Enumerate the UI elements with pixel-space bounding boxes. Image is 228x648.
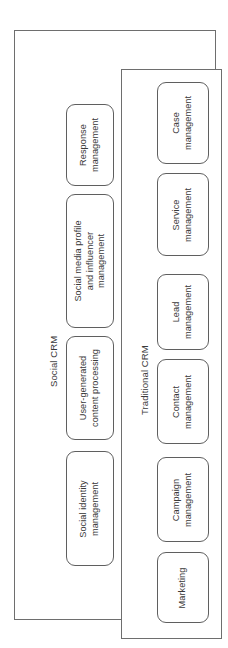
node-user-generated-content-processing-label: User-generated content processing	[78, 338, 101, 438]
node-service-management-text-wrap: Service management	[171, 175, 194, 254]
node-social-media-profile-and-influencer-management[interactable]: Social media profile and influencer mana…	[66, 194, 114, 328]
node-marketing[interactable]: Marketing	[157, 552, 209, 623]
node-response-management-text-wrap: Response management	[78, 106, 101, 184]
social-crm-group-label: Social CRM	[48, 336, 59, 387]
node-user-generated-content-processing[interactable]: User-generated content processing	[66, 336, 114, 440]
node-user-generated-content-processing-text-wrap: User-generated content processing	[78, 338, 101, 438]
node-marketing-text-wrap: Marketing	[177, 554, 189, 621]
node-contact-management[interactable]: Contact management	[157, 359, 209, 444]
node-campaign-management-text-wrap: Campaign management	[171, 459, 194, 540]
node-lead-management-text-wrap: Lead management	[171, 276, 194, 348]
node-social-identity-management-label: Social identity management	[78, 454, 101, 564]
node-social-identity-management[interactable]: Social identity management	[66, 451, 114, 566]
node-social-media-profile-text-wrap: Social media profile and influencer mana…	[73, 196, 108, 326]
node-response-management[interactable]: Response management	[66, 104, 114, 186]
social-crm-group-container: Social CRM Response management Social me…	[14, 30, 216, 620]
node-marketing-label: Marketing	[177, 554, 189, 621]
traditional-crm-group-container: Traditional CRM Case management Service …	[121, 69, 222, 639]
node-case-management[interactable]: Case management	[157, 82, 209, 164]
node-lead-management-label: Lead management	[171, 276, 194, 348]
node-social-media-profile-and-influencer-management-label: Social media profile and influencer mana…	[73, 196, 108, 326]
node-lead-management[interactable]: Lead management	[157, 274, 209, 350]
node-service-management[interactable]: Service management	[157, 173, 209, 256]
node-response-management-label: Response management	[78, 106, 101, 184]
node-contact-management-text-wrap: Contact management	[171, 361, 194, 442]
node-service-management-label: Service management	[171, 175, 194, 254]
node-contact-management-label: Contact management	[171, 361, 194, 442]
node-campaign-management-label: Campaign management	[171, 459, 194, 540]
node-social-identity-management-text-wrap: Social identity management	[78, 454, 101, 564]
node-case-management-label: Case management	[171, 84, 194, 162]
node-campaign-management[interactable]: Campaign management	[157, 457, 209, 542]
traditional-crm-group-label: Traditional CRM	[139, 345, 150, 415]
node-case-management-text-wrap: Case management	[171, 84, 194, 162]
